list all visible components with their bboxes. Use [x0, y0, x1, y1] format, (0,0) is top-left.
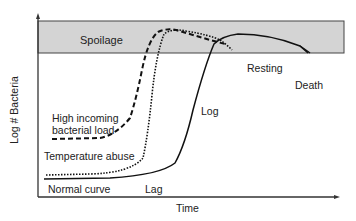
y-axis-label: Log # Bacteria [8, 70, 20, 150]
x-axis-label: Time [176, 202, 199, 214]
x-axis-arrow-icon [334, 195, 340, 199]
resting-label: Resting [247, 62, 283, 74]
log-label: Log [201, 105, 219, 117]
temperature-abuse-label: Temperature abuse [44, 150, 134, 162]
bacterial-growth-diagram: Spoilage Resting Death Log Lag High inco… [0, 0, 356, 221]
high-load-label-line1: High incoming [52, 112, 119, 124]
death-label: Death [295, 79, 323, 91]
normal-curve-label: Normal curve [48, 183, 110, 195]
lag-label: Lag [145, 183, 163, 195]
high-load-label-line2: bacterial load [52, 124, 114, 136]
spoilage-label: Spoilage [80, 34, 123, 46]
y-axis-arrow-icon [36, 13, 40, 19]
